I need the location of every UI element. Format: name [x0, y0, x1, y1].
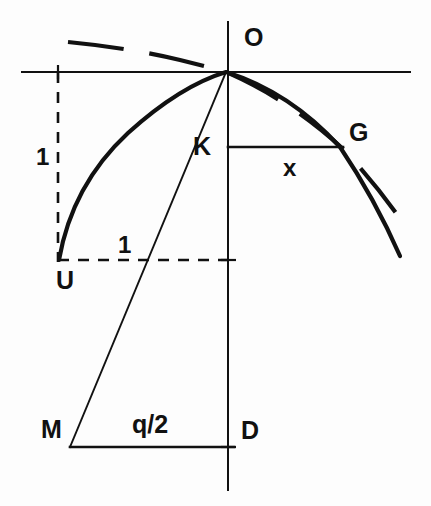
label-point-d: D — [241, 416, 259, 444]
geometry-figure: O K G U M D x q/2 1 1 — [0, 0, 431, 506]
label-point-m: M — [41, 415, 62, 443]
diagram-canvas: O K G U M D x q/2 1 1 — [0, 0, 431, 506]
solid-parabola-curve — [59, 72, 400, 260]
label-unit-vertical: 1 — [36, 143, 49, 170]
label-origin: O — [244, 23, 263, 51]
label-point-k: K — [193, 132, 211, 160]
label-point-u: U — [56, 266, 74, 294]
label-segment-x: x — [283, 154, 297, 181]
label-segment-q-half: q/2 — [132, 410, 168, 438]
label-point-g: G — [349, 118, 368, 146]
label-unit-horizontal: 1 — [118, 231, 131, 258]
